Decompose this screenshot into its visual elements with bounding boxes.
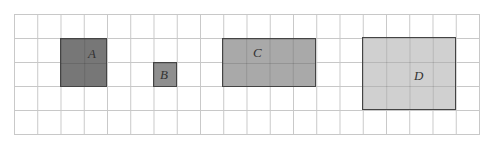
label-b: B <box>160 67 168 83</box>
rectangle-c: C <box>222 38 316 87</box>
label-c: C <box>253 45 262 61</box>
label-d: D <box>414 68 423 84</box>
label-a: A <box>88 46 96 62</box>
rectangle-a: A <box>60 38 107 87</box>
rectangle-d: D <box>362 37 456 110</box>
rectangle-b: B <box>153 62 177 87</box>
